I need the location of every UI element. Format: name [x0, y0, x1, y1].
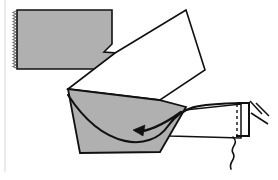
figure-canvas: [0, 0, 278, 180]
figure-svg: [0, 0, 278, 180]
